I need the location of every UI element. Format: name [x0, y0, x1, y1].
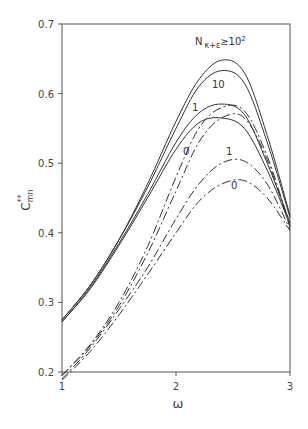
y-tick-label: 0.3 [38, 297, 54, 308]
y-tick-label: 0.5 [38, 158, 54, 169]
curve-label-1-solid: 1 [192, 102, 198, 113]
plot-frame [62, 24, 290, 372]
curve-line [62, 104, 290, 322]
svg-text:C**mn: C**mn [17, 189, 35, 210]
curve-label-0-solid: 0 [183, 146, 189, 157]
y-tick-label: 0.6 [38, 89, 54, 100]
x-axis-label: ω [173, 396, 184, 411]
curve-label-10: 10 [212, 79, 225, 90]
chart: 0.20.30.40.50.60.7123 ω C**mn Nκ+ε≥102 1… [0, 0, 308, 429]
curve-label-top: Nκ+ε≥102 [195, 35, 246, 50]
y-tick-label: 0.7 [38, 19, 54, 30]
x-tick-label: 1 [59, 381, 65, 392]
curve-label-0-dash: 0 [231, 180, 237, 191]
curve-line [62, 118, 290, 322]
y-tick-label: 0.4 [38, 228, 54, 239]
y-axis-label: C**mn [17, 189, 35, 210]
curve-line [62, 71, 290, 320]
y-tick-label: 0.2 [38, 367, 54, 378]
curve-label-1-dash: 1 [226, 146, 232, 157]
curve-line [62, 105, 290, 375]
x-tick-label: 3 [287, 381, 293, 392]
x-tick-label: 2 [173, 381, 179, 392]
